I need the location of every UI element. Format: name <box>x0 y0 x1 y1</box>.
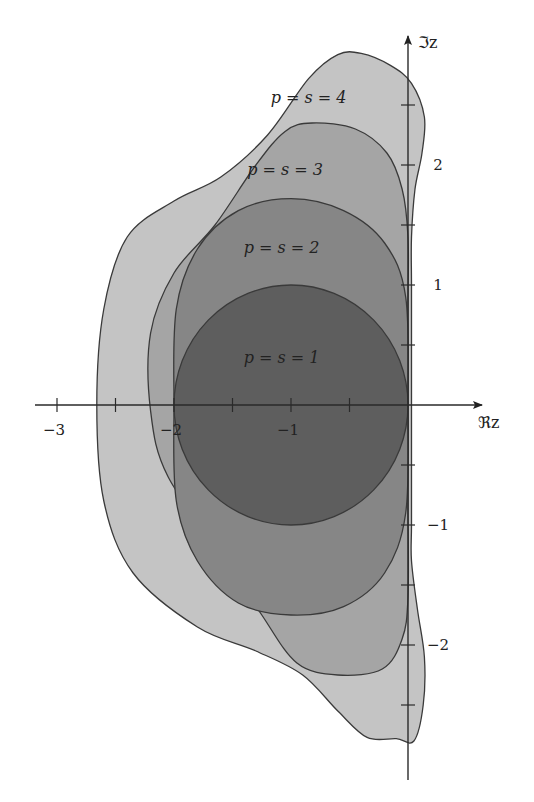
region-label-p-s-1: p = s = 1 <box>244 348 320 367</box>
imaginary-axis-label: ℑz <box>418 33 437 52</box>
region-label-p-s-2: p = s = 2 <box>244 238 320 257</box>
region-label-p-s-4: p = s = 4 <box>271 88 347 107</box>
x-tick-label: −2 <box>160 421 182 439</box>
y-tick-label: −1 <box>427 516 449 534</box>
real-axis-label: ℜz <box>478 413 499 432</box>
x-tick-label: −3 <box>43 421 65 439</box>
y-tick-label: −2 <box>427 636 449 654</box>
x-tick-label: −1 <box>277 421 299 439</box>
regions-layer <box>97 52 425 743</box>
y-tick-label: 1 <box>433 276 443 294</box>
region-label-p-s-3: p = s = 3 <box>247 160 323 179</box>
y-tick-label: 2 <box>433 156 443 174</box>
stability-region-plot: ℜz ℑz −3−2−121−1−2 p = s = 4p = s = 3p =… <box>0 0 534 802</box>
